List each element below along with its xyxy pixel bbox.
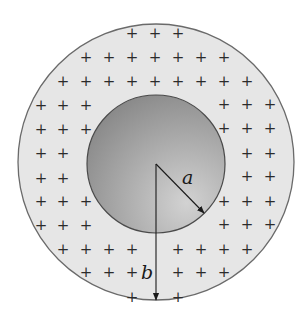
plus-charge-icon: + xyxy=(57,192,70,210)
plus-charge-icon: + xyxy=(195,48,208,66)
plus-charge-icon: + xyxy=(80,216,93,234)
plus-charge-icon: + xyxy=(126,48,139,66)
plus-charge-icon: + xyxy=(35,216,48,234)
plus-charge-icon: + xyxy=(264,119,277,137)
plus-charge-icon: + xyxy=(80,192,93,210)
plus-charge-icon: + xyxy=(195,240,208,258)
radius-b-label: b xyxy=(141,261,153,283)
plus-charge-icon: + xyxy=(126,263,139,281)
plus-charge-icon: + xyxy=(57,169,70,187)
plus-charge-icon: + xyxy=(57,96,70,114)
plus-charge-icon: + xyxy=(241,215,254,233)
plus-charge-icon: + xyxy=(241,167,254,185)
plus-charge-icon: + xyxy=(57,72,70,90)
plus-charge-icon: + xyxy=(172,72,185,90)
plus-charge-icon: + xyxy=(218,48,231,66)
plus-charge-icon: + xyxy=(80,72,93,90)
plus-charge-icon: + xyxy=(103,263,116,281)
plus-charge-icon: + xyxy=(80,120,93,138)
plus-charge-icon: + xyxy=(241,119,254,137)
plus-charge-icon: + xyxy=(35,96,48,114)
plus-charge-icon: + xyxy=(103,240,116,258)
plus-charge-icon: + xyxy=(80,263,93,281)
plus-charge-icon: + xyxy=(218,240,231,258)
plus-charge-icon: + xyxy=(264,144,277,162)
plus-charge-icon: + xyxy=(172,48,185,66)
plus-charge-icon: + xyxy=(126,240,139,258)
plus-charge-icon: + xyxy=(35,144,48,162)
plus-charge-icon: + xyxy=(241,72,254,90)
plus-charge-icon: + xyxy=(218,215,231,233)
plus-charge-icon: + xyxy=(264,167,277,185)
plus-charge-icon: + xyxy=(103,72,116,90)
radius-a-label: a xyxy=(182,166,193,188)
plus-charge-icon: + xyxy=(195,72,208,90)
plus-charge-icon: + xyxy=(241,240,254,258)
plus-charge-icon: + xyxy=(35,169,48,187)
plus-charge-icon: + xyxy=(35,120,48,138)
plus-charge-icon: + xyxy=(218,95,231,113)
plus-charge-icon: + xyxy=(57,144,70,162)
plus-charge-icon: + xyxy=(35,192,48,210)
plus-charge-icon: + xyxy=(218,192,231,210)
plus-charge-icon: + xyxy=(218,263,231,281)
plus-charge-icon: + xyxy=(241,95,254,113)
plus-charge-icon: + xyxy=(241,192,254,210)
plus-charge-icon: + xyxy=(218,72,231,90)
plus-charge-icon: + xyxy=(172,288,185,306)
plus-charge-icon: + xyxy=(80,240,93,258)
plus-charge-icon: + xyxy=(103,48,116,66)
plus-charge-icon: + xyxy=(264,215,277,233)
plus-charge-icon: + xyxy=(126,72,139,90)
plus-charge-icon: + xyxy=(80,48,93,66)
plus-charge-icon: + xyxy=(172,24,185,42)
plus-charge-icon: + xyxy=(126,288,139,306)
plus-charge-icon: + xyxy=(80,96,93,114)
plus-charge-icon: + xyxy=(264,95,277,113)
plus-charge-icon: + xyxy=(57,216,70,234)
plus-charge-icon: + xyxy=(172,263,185,281)
plus-charge-icon: + xyxy=(218,119,231,137)
plus-charge-icon: + xyxy=(264,192,277,210)
plus-charge-icon: + xyxy=(149,24,162,42)
plus-charge-icon: + xyxy=(172,240,185,258)
charged-sphere-diagram: ++++++++++++++++++++++++++++++++++++++++… xyxy=(0,0,304,332)
plus-charge-icon: + xyxy=(195,263,208,281)
plus-charge-icon: + xyxy=(57,120,70,138)
plus-charge-icon: + xyxy=(149,48,162,66)
plus-charge-icon: + xyxy=(126,24,139,42)
plus-charge-icon: + xyxy=(57,240,70,258)
plus-charge-icon: + xyxy=(149,72,162,90)
plus-charge-icon: + xyxy=(241,144,254,162)
